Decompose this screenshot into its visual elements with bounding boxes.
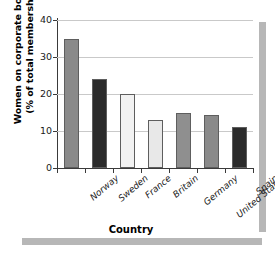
y-tick-label: 20 [32, 89, 52, 99]
gridline [57, 57, 253, 58]
x-tick-mark [85, 169, 86, 173]
x-axis-title: Country [0, 224, 262, 235]
bottom-decoration-bar [22, 238, 262, 245]
y-tick-label: 10 [32, 126, 52, 136]
y-tick-mark [53, 94, 57, 95]
y-tick-label: 40 [32, 15, 52, 25]
x-tick-mark [197, 169, 198, 173]
y-axis-title-line2: (% of total membership) [23, 0, 35, 125]
gridline [57, 20, 253, 21]
y-axis-title-line1: Women on corporate boards [12, 0, 24, 125]
bar-britain [148, 120, 163, 168]
y-tick-label-wrap: 10 [28, 126, 52, 136]
bar-sweden [92, 79, 107, 168]
x-tick-mark [57, 169, 58, 173]
y-tick-label: 30 [32, 52, 52, 62]
y-tick-label: 0 [32, 163, 52, 173]
y-tick-label-wrap: 0 [28, 163, 52, 173]
y-tick-mark [53, 57, 57, 58]
bar-chart-figure: 010203040 NorwaySwedenFranceBritainGerma… [0, 0, 275, 256]
y-tick-mark [53, 131, 57, 132]
x-tick-label-britain: Britain [171, 173, 200, 200]
bar-spain [232, 127, 247, 168]
x-tick-mark [141, 169, 142, 173]
x-tick-label-sweden: Sweden [116, 173, 150, 204]
gridline [57, 94, 253, 95]
x-tick-label-norway: Norway [88, 173, 121, 203]
y-tick-mark [53, 20, 57, 21]
plot-area [57, 20, 253, 168]
bar-united-states [204, 115, 219, 168]
x-tick-label-germany: Germany [202, 173, 240, 207]
bar-germany [176, 113, 191, 169]
bar-norway [64, 39, 79, 169]
bar-france [120, 94, 135, 168]
x-tick-mark [169, 169, 170, 173]
y-axis-title: Women on corporate boards (% of total me… [12, 0, 35, 125]
x-tick-mark [253, 169, 254, 173]
x-tick-mark [225, 169, 226, 173]
